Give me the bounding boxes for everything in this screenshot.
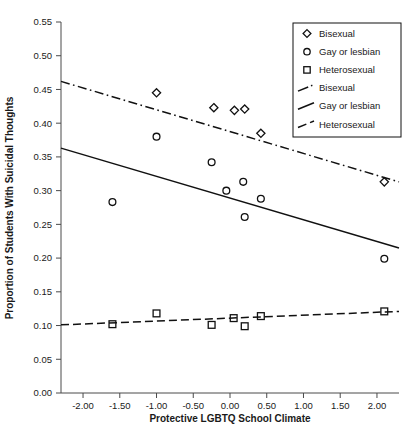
y-tick-label: 0.45 [34, 84, 53, 95]
y-tick-label: 0.50 [34, 50, 53, 61]
x-tick-label: 2.00 [368, 400, 387, 411]
series-heterosexual [109, 308, 388, 330]
chart-figure: 0.000.050.100.150.200.250.300.350.400.45… [0, 0, 408, 436]
series-gay-or-lesbian [109, 133, 388, 262]
data-point-gay-or-lesbian [223, 187, 230, 194]
data-point-heterosexual [241, 323, 248, 330]
x-tick-label: -0.50 [182, 400, 204, 411]
data-point-bisexual [230, 106, 238, 114]
legend-label-heterosexual-line: Heterosexual [319, 119, 375, 130]
data-point-gay-or-lesbian [241, 214, 248, 221]
y-axis-title: Proportion of Students With Suicidal Tho… [4, 96, 15, 319]
data-point-gay-or-lesbian [109, 199, 116, 206]
x-tick-label: 0.00 [221, 400, 240, 411]
x-tick-label: -1.50 [109, 400, 131, 411]
data-point-gay-or-lesbian [381, 255, 388, 262]
y-tick-label: 0.40 [34, 118, 53, 129]
data-point-heterosexual [257, 313, 264, 320]
data-point-bisexual [152, 89, 160, 97]
chart-legend[interactable]: BisexualGay or lesbianHeterosexualBisexu… [293, 23, 401, 137]
fit-line-gay-or-lesbian [61, 148, 399, 248]
y-tick-label: 0.05 [34, 354, 53, 365]
y-tick-label: 0.35 [34, 151, 53, 162]
y-tick-label: 0.15 [34, 286, 53, 297]
data-point-heterosexual [208, 321, 215, 328]
legend-label-gay-or-lesbian-line: Gay or lesbian [319, 100, 380, 111]
y-tick-label: 0.10 [34, 320, 53, 331]
y-tick-label: 0.30 [34, 185, 53, 196]
data-point-bisexual [241, 105, 249, 113]
y-tick-label: 0.00 [34, 387, 53, 398]
legend-label-bisexual-marker: Bisexual [319, 28, 355, 39]
x-tick-label: 0.50 [257, 400, 276, 411]
x-tick-label: 1.00 [294, 400, 313, 411]
data-point-bisexual [257, 129, 265, 137]
y-tick-label: 0.25 [34, 219, 53, 230]
data-point-heterosexual [109, 321, 116, 328]
data-point-gay-or-lesbian [257, 195, 264, 202]
data-point-heterosexual [153, 310, 160, 317]
data-point-gay-or-lesbian [240, 178, 247, 185]
y-tick-label: 0.20 [34, 252, 53, 263]
data-point-bisexual [210, 104, 218, 112]
x-axis-title: Protective LGBTQ School Climate [149, 413, 311, 424]
data-point-gay-or-lesbian [153, 133, 160, 140]
data-point-gay-or-lesbian [208, 159, 215, 166]
x-axis-ticks: -2.00-1.50-1.00-0.500.000.501.001.502.00 [72, 393, 386, 411]
legend-label-bisexual-line: Bisexual [319, 82, 355, 93]
legend-label-heterosexual-marker: Heterosexual [319, 64, 375, 75]
x-tick-label: -1.00 [146, 400, 168, 411]
x-tick-label: 1.50 [331, 400, 350, 411]
legend-label-gay-or-lesbian-marker: Gay or lesbian [319, 46, 380, 57]
y-tick-label: 0.55 [34, 16, 53, 27]
y-axis-ticks: 0.000.050.100.150.200.250.300.350.400.45… [34, 16, 62, 398]
scatter-plot-canvas: 0.000.050.100.150.200.250.300.350.400.45… [0, 0, 408, 436]
x-tick-label: -2.00 [72, 400, 94, 411]
